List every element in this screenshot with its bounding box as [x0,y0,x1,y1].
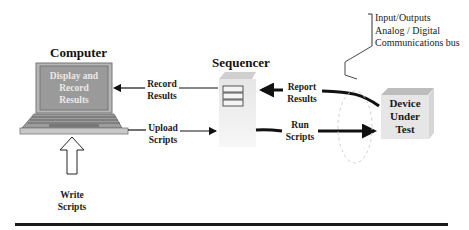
record-results-label: Record Results [141,78,183,102]
io-bracket [345,14,372,79]
io-note: Input/Outputs Analog / Digital Communica… [375,12,469,50]
write-scripts-label: Write Scripts [50,189,94,213]
bus-connection-ellipse [338,91,372,163]
computer-screen-text: Display and Record Results [40,70,108,106]
bottom-divider [15,223,448,226]
sequencer-server-icon [219,72,256,147]
dut-label: Device Under Test [381,97,429,136]
screen-line-3: Results [40,94,108,106]
report-results-arrow [322,91,379,106]
report-results-label: Report Results [281,81,323,105]
run-scripts-label: Run Scripts [280,119,320,143]
run-scripts-arrow [256,130,282,131]
screen-line-1: Display and [40,70,108,82]
write-scripts-arrow [60,137,84,174]
upload-scripts-label: Upload Scripts [142,122,184,146]
computer-title: Computer [50,45,107,61]
screen-line-2: Record [40,82,108,94]
sequencer-title: Sequencer [212,55,270,71]
